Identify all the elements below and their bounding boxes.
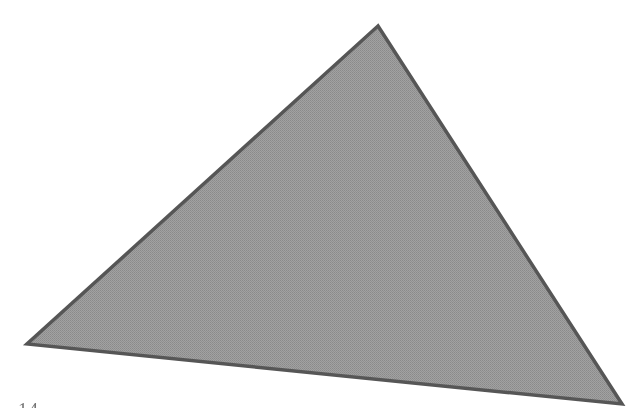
triangle-fill-texture xyxy=(27,26,622,404)
figure-page: 14 xyxy=(0,0,637,417)
triangle-figure xyxy=(0,0,637,417)
triangle-svg xyxy=(0,0,637,417)
